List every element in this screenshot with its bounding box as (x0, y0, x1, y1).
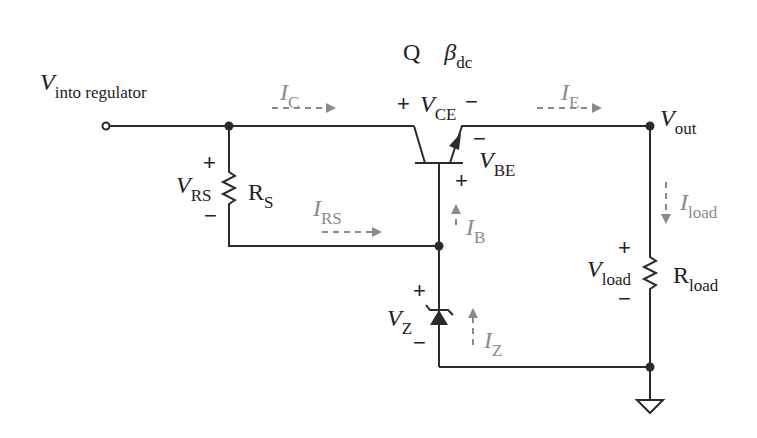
vin-label: Vinto regulator (40, 70, 147, 101)
circuit-schematic (0, 0, 757, 438)
junction-node-base (435, 242, 444, 251)
resistor-rload (644, 126, 656, 400)
transistor-collector (414, 126, 425, 163)
rload-label: Rload (673, 263, 718, 294)
vz-label: VZ (387, 306, 412, 337)
input-terminal (103, 123, 110, 130)
vrs-minus: − (204, 205, 217, 227)
zener-diode-icon (430, 310, 448, 325)
rs-label: RS (248, 180, 273, 211)
irs-label: IRS (313, 196, 342, 227)
ie-label: IE (561, 80, 579, 111)
transistor-label: Q βdc (403, 40, 472, 71)
iz-label: IZ (484, 328, 502, 359)
transistor-name: Q (403, 39, 420, 65)
ic-label: IC (280, 80, 299, 111)
vce-minus: − (465, 91, 478, 113)
vrs-label: VRS (176, 173, 211, 204)
beta-sub: dc (456, 53, 472, 72)
vload-label: Vload (587, 257, 631, 288)
vload-plus: + (618, 237, 631, 259)
vout-label: Vout (660, 106, 696, 137)
vz-minus: − (413, 332, 426, 354)
ib-label: IB (466, 215, 485, 246)
vrs-plus: + (203, 152, 216, 174)
vbe-label: VBE (479, 148, 515, 179)
vce-label: VCE (420, 92, 456, 123)
iload-label: Iload (680, 190, 717, 221)
ground-node (646, 363, 655, 372)
vload-minus: − (618, 288, 631, 310)
vce-plus: + (397, 93, 410, 115)
beta-symbol: β (444, 39, 456, 65)
emitter-arrow-icon (449, 133, 461, 150)
vbe-plus: + (455, 170, 468, 192)
ground-icon (637, 400, 663, 413)
vz-plus: + (413, 280, 426, 302)
